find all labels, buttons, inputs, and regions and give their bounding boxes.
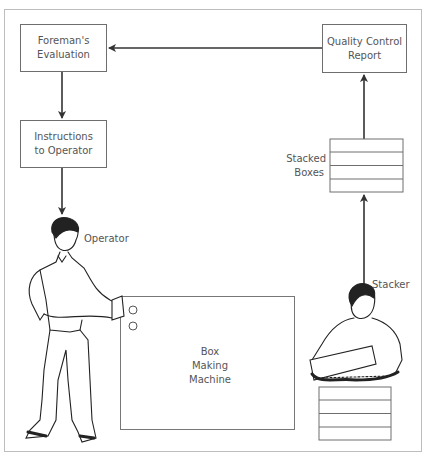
stacker-figure-icon (0, 0, 428, 461)
stacker-label: Stacker (372, 278, 410, 292)
